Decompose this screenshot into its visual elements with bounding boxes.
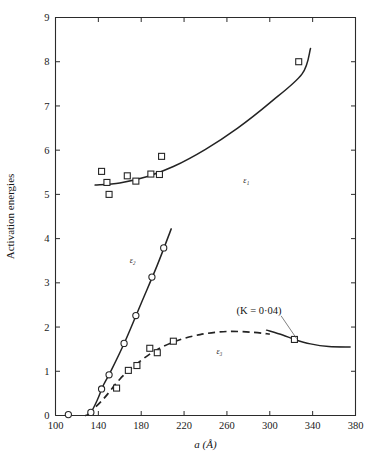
y-tick-label: 4 <box>44 233 50 244</box>
data-point-square <box>154 350 160 356</box>
series-label-ε₂: ε₂ <box>130 256 136 265</box>
x-tick-label: 100 <box>48 420 64 431</box>
series-labels: ε₁ε₂ε₃ <box>130 176 250 356</box>
data-point-circle <box>98 386 104 392</box>
x-tick-label: 260 <box>219 420 235 431</box>
curve-K-branch <box>267 330 351 347</box>
y-tick-label: 9 <box>44 12 49 23</box>
data-point-square <box>106 191 112 197</box>
x-axis-tick-labels: 100140180220260300340380 <box>48 420 364 431</box>
x-tick-label: 380 <box>348 420 364 431</box>
data-point-circle <box>121 340 127 346</box>
data-point-square <box>148 171 154 177</box>
figure-canvas: 100140180220260300340380 0123456789 ε₁ε₂… <box>0 0 379 457</box>
y-axis-tick-labels: 0123456789 <box>44 12 50 421</box>
axis-ticks <box>56 18 356 416</box>
y-axis-title: Activation energies <box>4 174 16 260</box>
data-point-square <box>104 179 110 185</box>
x-tick-label: 220 <box>176 420 192 431</box>
data-point-square <box>133 178 139 184</box>
plot-frame <box>56 18 356 416</box>
data-point-circle <box>133 312 139 318</box>
series-label-ε₁: ε₁ <box>243 176 249 185</box>
data-point-circle <box>65 412 71 418</box>
y-tick-label: 8 <box>44 56 49 67</box>
series-label-ε₃: ε₃ <box>216 347 222 356</box>
y-tick-label: 5 <box>44 189 49 200</box>
plot-border <box>56 18 356 416</box>
data-point-circle <box>161 245 167 251</box>
y-tick-label: 6 <box>44 145 49 156</box>
y-tick-label: 7 <box>44 101 49 112</box>
annotation-k-value: (K = 0·04) <box>237 305 282 317</box>
data-point-square <box>291 336 297 342</box>
y-tick-label: 1 <box>44 366 49 377</box>
data-point-circle <box>88 409 94 415</box>
data-point-circle <box>149 274 155 280</box>
data-point-square <box>99 168 105 174</box>
x-tick-label: 180 <box>133 420 149 431</box>
curve-ε₁ <box>95 48 310 185</box>
data-point-square <box>156 171 162 177</box>
data-point-square <box>296 59 302 65</box>
x-tick-label: 140 <box>90 420 106 431</box>
data-point-square <box>124 173 130 179</box>
data-point-square <box>134 363 140 369</box>
data-point-square <box>159 153 165 159</box>
axis-titles: a (Å)Activation energies <box>4 174 217 451</box>
data-curves <box>86 48 351 415</box>
x-axis-title: a (Å) <box>194 438 217 451</box>
data-point-square <box>147 345 153 351</box>
y-tick-label: 3 <box>44 277 49 288</box>
y-tick-label: 0 <box>44 410 49 421</box>
activation-energies-chart: 100140180220260300340380 0123456789 ε₁ε₂… <box>0 0 379 457</box>
data-point-circle <box>106 372 112 378</box>
curve-ε₃ <box>88 331 270 414</box>
data-point-square <box>114 385 120 391</box>
data-markers <box>65 59 301 418</box>
data-point-square <box>125 367 131 373</box>
x-tick-label: 300 <box>262 420 278 431</box>
x-tick-label: 340 <box>305 420 321 431</box>
y-tick-label: 2 <box>44 322 49 333</box>
data-point-square <box>170 338 176 344</box>
